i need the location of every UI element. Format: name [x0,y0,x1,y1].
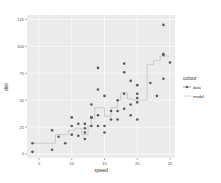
data-point [97,125,100,128]
data-point [51,148,54,151]
x-tick-label: 5 [38,161,41,166]
legend: colour data model [183,75,204,99]
data-point [70,125,73,128]
x-tick-label: 20 [135,161,140,166]
y-tick-label: 25 [20,125,25,130]
data-point [84,123,87,126]
data-point [90,116,93,119]
data-point [97,114,100,117]
data-point [162,77,165,80]
x-axis-title: speed [94,167,108,173]
data-point [31,142,34,145]
scatter-chart: 0255075100125 510152025 speed dist colou… [0,0,221,183]
data-point [90,125,93,128]
data-point [162,24,165,27]
data-point [84,138,87,141]
data-point [70,116,73,119]
data-point [123,71,126,74]
y-tick-label: 0 [22,151,25,156]
legend-entry-model: model [193,94,204,99]
data-point [97,67,100,70]
legend-entry-data: data [193,85,202,90]
x-tick-label: 10 [70,161,75,166]
legend-title: colour [183,75,197,81]
y-tick-label: 125 [17,17,24,22]
data-point [110,110,113,113]
x-tick-label: 25 [168,161,173,166]
y-tick-label: 100 [17,44,24,49]
data-point [70,133,73,136]
y-tick-label: 50 [20,98,25,103]
data-point [136,92,139,95]
data-point [116,110,119,113]
data-point [51,129,54,132]
data-point [110,118,113,121]
data-point [57,135,60,138]
data-point [149,82,152,85]
data-point [129,114,132,117]
data-point [129,80,132,83]
data-point [77,123,80,126]
data-point [123,62,126,65]
data-point [123,108,126,111]
data-point [31,151,34,154]
data-point [162,53,165,56]
legend-data-point-icon [186,86,188,88]
data-point [123,92,126,95]
y-tick-label: 75 [20,71,25,76]
x-axis-ticks: 510152025 [38,158,173,166]
data-point [103,95,106,98]
data-point [103,125,106,128]
data-point [84,131,87,134]
data-point [136,97,139,100]
data-point [116,118,119,121]
data-point [129,103,132,106]
x-tick-label: 15 [102,161,107,166]
data-point [169,61,172,64]
data-point [136,101,139,104]
data-point [64,142,67,145]
data-point [84,127,87,130]
y-axis-title: dist [3,82,9,90]
data-point [136,118,139,121]
data-point [103,131,106,134]
data-point [97,88,100,91]
y-axis-ticks: 0255075100125 [17,17,27,157]
data-point [90,103,93,106]
data-point [116,99,119,102]
data-point [136,84,139,87]
data-point [156,95,159,98]
plot-panel [27,15,175,158]
data-point [77,134,80,137]
